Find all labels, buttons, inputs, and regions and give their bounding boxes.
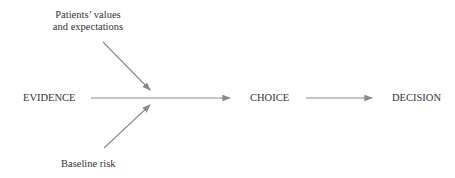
decision-node: DECISION	[392, 92, 441, 104]
evidence-node: EVIDENCE	[23, 92, 76, 104]
values-label: Patients’ values and expectations	[48, 9, 128, 33]
choice-node: CHOICE	[250, 92, 289, 104]
baseline-label: Baseline risk	[61, 158, 116, 170]
diagram: Patients’ values and expectations EVIDEN…	[0, 0, 455, 178]
values-arrow	[103, 42, 150, 90]
baseline-arrow	[104, 105, 150, 148]
values-line1: Patients’ values	[48, 9, 128, 21]
values-line2: and expectations	[48, 21, 128, 33]
